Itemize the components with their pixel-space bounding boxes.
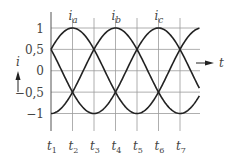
x-tick-label: t1: [47, 139, 57, 155]
x-tick-labels: t1t2t3t4t5t6t7: [47, 139, 186, 155]
right-arrow-icon: [205, 61, 214, 66]
x-tick-label: t2: [69, 139, 79, 155]
y-tick-labels: 10,50−0,5−1: [15, 22, 44, 122]
three-phase-current-chart: 10,50−0,5−1 t1t2t3t4t5t6t7 iaibic i t: [0, 0, 237, 161]
x-tick-label: t6: [155, 139, 165, 155]
series-label-ib: ib: [112, 9, 122, 25]
series-label-ia: ia: [69, 9, 78, 25]
y-tick-label: −1: [26, 107, 44, 121]
x-tick-label: t3: [90, 139, 100, 155]
x-axis-label-text: t: [219, 56, 224, 70]
x-tick-label: t7: [176, 139, 186, 155]
y-tick-label: 0: [36, 64, 44, 78]
y-tick-label: 0,5: [25, 43, 44, 57]
series-label-ic: ic: [155, 9, 164, 25]
series-labels: iaibic: [69, 9, 164, 25]
y-axis-label-text: i: [16, 55, 20, 69]
y-tick-label: −0,5: [15, 86, 44, 100]
x-tick-label: t5: [133, 139, 143, 155]
x-axis-label: t: [196, 56, 224, 70]
x-tick-label: t4: [112, 139, 122, 155]
y-tick-label: 1: [36, 22, 44, 36]
up-arrow-icon: [16, 71, 21, 80]
